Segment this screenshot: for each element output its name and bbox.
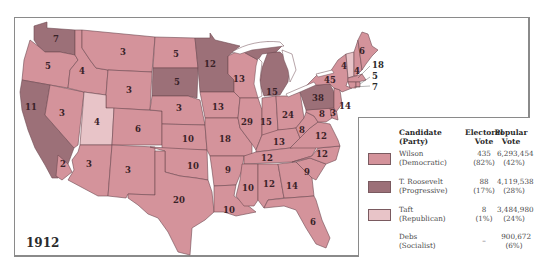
ev-label-TN: 12 <box>261 153 273 163</box>
legend-row-taft: Taft (Republican) 8 (1%) 3,484,980 (24%) <box>359 205 531 235</box>
ev-label-UT: 4 <box>94 117 100 127</box>
popular-votes: 4,119,538 <box>497 177 531 186</box>
ev-label-WI: 13 <box>233 74 245 84</box>
candidate-cell: T. Roosevelt (Progressive) <box>399 177 469 195</box>
candidate-name: Wilson <box>399 149 469 158</box>
ev-label-KY: 13 <box>273 137 285 147</box>
ev-label-OR: 5 <box>45 61 51 71</box>
ev-label-IA: 13 <box>212 102 224 112</box>
ev-label-IN: 15 <box>260 117 272 127</box>
popular-cell: 3,484,980 (24%) <box>497 205 531 223</box>
ev-label-NC: 12 <box>316 149 328 159</box>
ev-label-LA: 10 <box>223 205 235 215</box>
candidate-name: Taft <box>399 205 469 214</box>
popular-percent: (42%) <box>497 158 531 167</box>
candidate-party: (Republican) <box>399 214 469 223</box>
ev-label-MS: 10 <box>242 183 254 193</box>
legend-row-debs: Debs (Socialist) – 900,672 (6%) <box>359 232 531 262</box>
ev-label-NY: 45 <box>324 75 336 85</box>
ev-label-PA: 38 <box>312 93 324 103</box>
electoral-cell: 88 (17%) <box>467 177 501 195</box>
electoral-percent: (17%) <box>467 186 501 195</box>
ev-label-MT: 3 <box>120 47 126 57</box>
header-party: (Party) <box>399 137 442 146</box>
ev-label-MN: 12 <box>204 59 216 69</box>
ev-label-FL: 6 <box>310 217 316 227</box>
header-popular-vote: Vote <box>491 137 531 146</box>
popular-percent: (6%) <box>497 241 531 250</box>
ev-label-CA: 11 <box>25 102 37 112</box>
header-popular: Popular <box>491 128 531 137</box>
legend-row-wilson: Wilson (Democratic) 435 (82%) 6,293,454 … <box>359 149 531 179</box>
candidate-name: T. Roosevelt <box>399 177 469 186</box>
ev-label-VT: 4 <box>341 61 347 71</box>
ev-label-ND: 5 <box>173 49 179 59</box>
ev-label-ME: 6 <box>359 46 365 56</box>
ev-label-AR: 9 <box>225 165 231 175</box>
candidate-cell: Debs (Socialist) <box>399 232 469 250</box>
electoral-cell: 435 (82%) <box>467 149 501 167</box>
ev-label-NH: 4 <box>354 66 360 76</box>
electoral-cell: – <box>467 236 501 245</box>
swatch-roosevelt <box>368 181 391 193</box>
header-candidate: Candidate <box>399 128 442 137</box>
state-FL[interactable] <box>264 196 330 248</box>
ev-label-GA: 14 <box>286 181 298 191</box>
legend-table: Candidate (Party) Electoral Vote Popular… <box>358 117 530 257</box>
popular-cell: 900,672 (6%) <box>497 232 531 250</box>
electoral-cell: 8 (1%) <box>467 205 501 223</box>
popular-cell: 4,119,538 (28%) <box>497 177 531 195</box>
candidate-name: Debs <box>399 232 469 241</box>
ev-label-NV: 3 <box>59 108 65 118</box>
ev-label-CA-south: 2 <box>60 159 66 169</box>
electoral-percent: (1%) <box>467 214 501 223</box>
ev-label-WV: 8 <box>299 125 305 135</box>
electoral-votes: 435 <box>467 149 501 158</box>
ev-label-RI: 5 <box>372 71 378 81</box>
legend-header-popular: Popular Vote <box>491 128 531 146</box>
state-AZ[interactable] <box>68 145 112 196</box>
state-RI[interactable] <box>356 82 360 87</box>
candidate-cell: Wilson (Democratic) <box>399 149 469 167</box>
ev-label-KS: 10 <box>182 134 194 144</box>
ev-label-ID: 4 <box>79 66 85 76</box>
candidate-cell: Taft (Republican) <box>399 205 469 223</box>
ev-label-MO: 18 <box>219 134 231 144</box>
ev-label-NE: 3 <box>176 103 182 113</box>
candidate-party: (Progressive) <box>399 186 469 195</box>
electoral-votes: – <box>467 236 501 245</box>
ev-label-AZ: 3 <box>86 159 92 169</box>
swatch-wilson <box>368 153 391 165</box>
electoral-votes: 8 <box>467 205 501 214</box>
legend-row-roosevelt: T. Roosevelt (Progressive) 88 (17%) 4,11… <box>359 177 531 207</box>
popular-percent: (24%) <box>497 214 531 223</box>
electoral-votes: 88 <box>467 177 501 186</box>
ev-label-CT: 7 <box>372 82 378 92</box>
ev-label-MD: 8 <box>319 109 325 119</box>
ev-label-OH: 24 <box>282 110 294 120</box>
state-NM[interactable] <box>108 145 155 198</box>
legend-header-candidate: Candidate (Party) <box>399 128 442 146</box>
popular-percent: (28%) <box>497 186 531 195</box>
ev-label-CO: 6 <box>135 124 141 134</box>
ev-label-TX: 20 <box>173 195 185 205</box>
ev-label-WY: 3 <box>126 85 132 95</box>
map-year-label: 1912 <box>26 236 59 250</box>
ev-label-NM: 3 <box>125 165 131 175</box>
candidate-party: (Socialist) <box>399 241 469 250</box>
ev-label-MA: 18 <box>372 60 384 70</box>
electoral-percent: (82%) <box>467 158 501 167</box>
ev-label-DE: 3 <box>330 108 336 118</box>
ev-label-NJ: 14 <box>339 101 351 111</box>
popular-votes: 6,293,454 <box>497 149 531 158</box>
ev-label-SD: 5 <box>174 77 180 87</box>
ev-label-WA: 7 <box>53 34 59 44</box>
popular-votes: 900,672 <box>497 232 531 241</box>
popular-cell: 6,293,454 (42%) <box>497 149 531 167</box>
ev-label-VA: 12 <box>315 131 327 141</box>
swatch-taft <box>368 209 391 221</box>
ev-label-SC: 9 <box>304 167 310 177</box>
candidate-party: (Democratic) <box>399 158 469 167</box>
ev-label-OK: 10 <box>187 161 199 171</box>
ev-label-MI: 15 <box>266 87 278 97</box>
